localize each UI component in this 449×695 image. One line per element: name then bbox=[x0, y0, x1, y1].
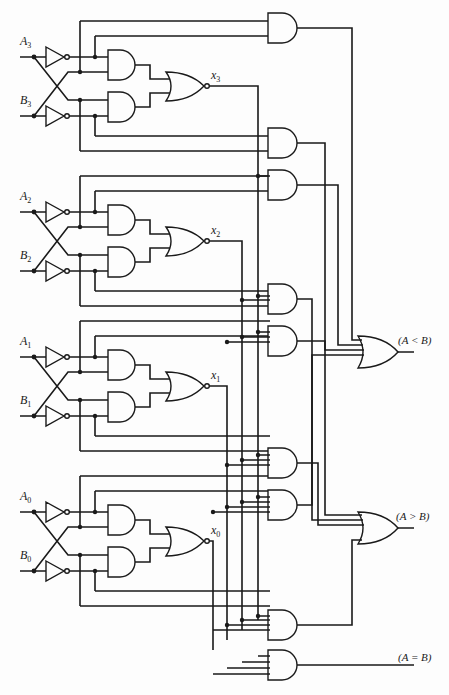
input-label-b3: B3 bbox=[20, 93, 31, 109]
input-label-b2: B2 bbox=[20, 248, 31, 264]
input-label-a0: A0 bbox=[20, 489, 31, 505]
x1-label: x1 bbox=[211, 368, 220, 384]
output-label-less: (A < B) bbox=[398, 334, 432, 346]
wiring-layer bbox=[0, 0, 449, 695]
output-label-greater: (A > B) bbox=[396, 510, 430, 522]
x3-label: x3 bbox=[211, 68, 220, 84]
input-label-a3: A3 bbox=[20, 34, 31, 50]
input-label-b1: B1 bbox=[20, 393, 31, 409]
input-label-b0: B0 bbox=[20, 548, 31, 564]
x0-label: x0 bbox=[211, 523, 220, 539]
output-label-equal: (A = B) bbox=[398, 651, 432, 663]
input-label-a1: A1 bbox=[20, 334, 31, 350]
x2-label: x2 bbox=[211, 223, 220, 239]
input-label-a2: A2 bbox=[20, 189, 31, 205]
